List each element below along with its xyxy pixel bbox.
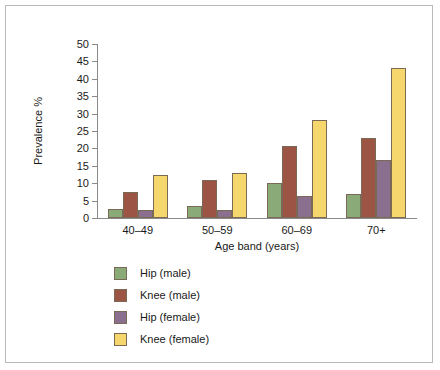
bar <box>376 160 391 218</box>
x-axis-line <box>97 218 417 219</box>
bar <box>187 206 202 218</box>
legend-item[interactable]: Hip (female) <box>114 306 209 328</box>
legend-item[interactable]: Knee (female) <box>114 328 209 350</box>
bar <box>267 183 282 218</box>
legend-item[interactable]: Knee (male) <box>114 284 209 306</box>
y-axis-tick-label: 5 <box>83 195 89 206</box>
plot-area: 05101520253035404550 <box>98 44 416 218</box>
bar <box>232 173 247 218</box>
x-axis-group-label: 70+ <box>367 224 386 236</box>
bar <box>138 210 153 218</box>
y-axis-tick-label: 30 <box>77 108 89 119</box>
bar <box>391 68 406 218</box>
y-axis-tick <box>92 114 98 115</box>
y-axis-tick <box>92 44 98 45</box>
y-axis-tick <box>92 61 98 62</box>
bar <box>123 192 138 218</box>
x-axis-group-label: 50–59 <box>202 224 233 236</box>
x-axis-group-label: 40–49 <box>122 224 153 236</box>
y-axis-title: Prevalence % <box>32 97 44 165</box>
y-axis-tick <box>92 131 98 132</box>
y-axis-tick-label: 10 <box>77 178 89 189</box>
chart-legend: Hip (male)Knee (male)Hip (female)Knee (f… <box>114 262 209 350</box>
chart-frame: Prevalence % 05101520253035404550 Age ba… <box>5 5 433 363</box>
legend-swatch-icon <box>114 333 127 346</box>
legend-swatch-icon <box>114 289 127 302</box>
y-axis-tick-label: 25 <box>77 126 89 137</box>
y-axis-tick <box>92 79 98 80</box>
legend-item-label: Hip (female) <box>140 311 200 323</box>
x-axis-group-label: 60–69 <box>281 224 312 236</box>
bar <box>108 209 123 218</box>
bar <box>346 194 361 218</box>
y-axis-tick-label: 15 <box>77 160 89 171</box>
y-axis-tick <box>92 218 98 219</box>
y-axis-tick-label: 50 <box>77 39 89 50</box>
legend-item[interactable]: Hip (male) <box>114 262 209 284</box>
bar <box>202 180 217 218</box>
legend-item-label: Knee (male) <box>140 289 200 301</box>
y-axis-tick <box>92 148 98 149</box>
y-axis-tick <box>92 183 98 184</box>
y-axis-tick-label: 20 <box>77 143 89 154</box>
bar <box>282 146 297 218</box>
bar <box>312 120 327 218</box>
y-axis-tick-label: 40 <box>77 73 89 84</box>
y-axis-tick-label: 0 <box>83 213 89 224</box>
bar <box>153 175 168 219</box>
y-axis-tick-label: 35 <box>77 91 89 102</box>
legend-swatch-icon <box>114 267 127 280</box>
legend-item-label: Knee (female) <box>140 333 209 345</box>
x-axis-title: Age band (years) <box>98 240 416 252</box>
bar <box>297 196 312 218</box>
y-axis-tick <box>92 96 98 97</box>
y-axis-tick <box>92 166 98 167</box>
bar <box>217 210 232 218</box>
bar <box>361 138 376 218</box>
y-axis-tick-label: 45 <box>77 56 89 67</box>
legend-item-label: Hip (male) <box>140 267 191 279</box>
y-axis-tick <box>92 201 98 202</box>
legend-swatch-icon <box>114 311 127 324</box>
